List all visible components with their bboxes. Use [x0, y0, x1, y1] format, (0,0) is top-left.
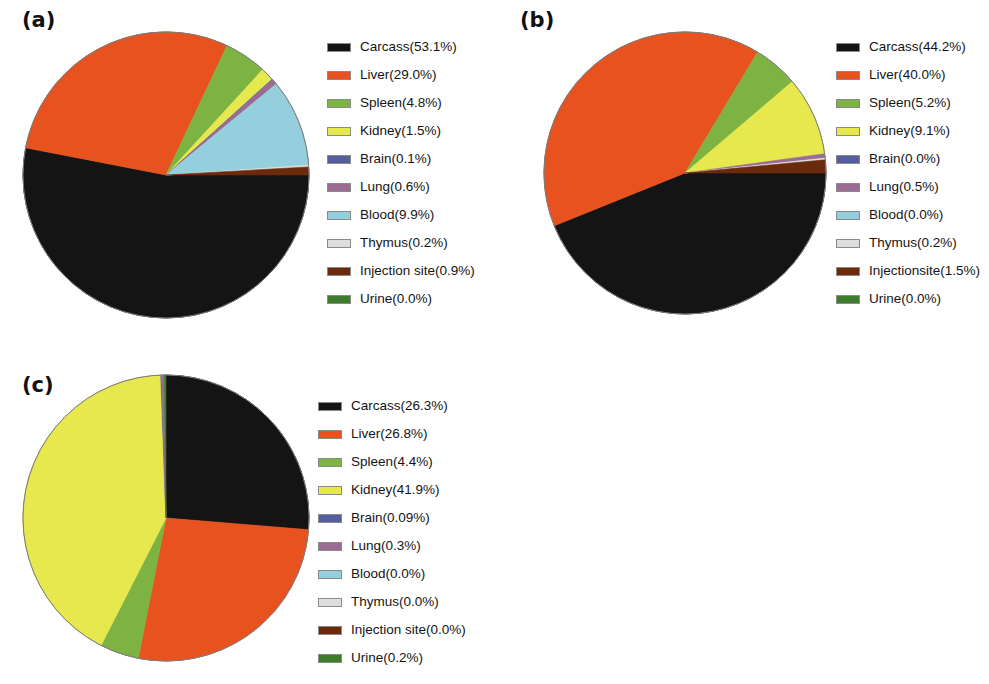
- legend-label: Injection site(0.9%): [360, 264, 475, 278]
- legend-item: Urine(0.2%): [318, 644, 466, 672]
- legend-swatch-liver: [327, 71, 351, 80]
- legend-label: Brain(0.09%): [351, 511, 430, 525]
- panel-label-a: (a): [22, 8, 55, 32]
- legend-b: Carcass(44.2%)Liver(40.0%)Spleen(5.2%)Ki…: [836, 33, 980, 313]
- legend-item: Thymus(0.2%): [836, 229, 980, 257]
- legend-swatch-thymus: [327, 239, 351, 248]
- legend-item: Brain(0.1%): [327, 145, 475, 173]
- legend-item: Thymus(0.2%): [327, 229, 475, 257]
- legend-label: Thymus(0.2%): [869, 236, 957, 250]
- legend-label: Liver(26.8%): [351, 427, 428, 441]
- legend-item: Urine(0.0%): [836, 285, 980, 313]
- legend-label: Brain(0.0%): [869, 152, 940, 166]
- legend-item: Injection site(0.0%): [318, 616, 466, 644]
- legend-label: Lung(0.5%): [869, 180, 939, 194]
- legend-item: Brain(0.09%): [318, 504, 466, 532]
- legend-item: Carcass(53.1%): [327, 33, 475, 61]
- legend-label: Thymus(0.2%): [360, 236, 448, 250]
- legend-item: Carcass(44.2%): [836, 33, 980, 61]
- legend-swatch-thymus: [836, 239, 860, 248]
- pie-chart-c: [21, 373, 311, 663]
- legend-label: Urine(0.0%): [869, 292, 941, 306]
- legend-a: Carcass(53.1%)Liver(29.0%)Spleen(4.8%)Ki…: [327, 33, 475, 313]
- legend-swatch-carcass: [327, 43, 351, 52]
- legend-label: Spleen(5.2%): [869, 96, 951, 110]
- legend-label: Lung(0.3%): [351, 539, 421, 553]
- legend-item: Spleen(4.8%): [327, 89, 475, 117]
- legend-label: Spleen(4.8%): [360, 96, 442, 110]
- legend-swatch-brain: [327, 155, 351, 164]
- legend-c: Carcass(26.3%)Liver(26.8%)Spleen(4.4%)Ki…: [318, 392, 466, 672]
- legend-swatch-brain: [836, 155, 860, 164]
- legend-item: Spleen(5.2%): [836, 89, 980, 117]
- legend-swatch-injection-site: [318, 626, 342, 635]
- legend-label: Blood(9.9%): [360, 208, 434, 222]
- legend-swatch-liver: [836, 71, 860, 80]
- legend-label: Blood(0.0%): [351, 567, 425, 581]
- legend-item: Injectionsite(1.5%): [836, 257, 980, 285]
- legend-swatch-urine: [836, 295, 860, 304]
- pie-chart-b: [542, 30, 828, 316]
- legend-item: Brain(0.0%): [836, 145, 980, 173]
- legend-item: Liver(26.8%): [318, 420, 466, 448]
- legend-label: Kidney(1.5%): [360, 124, 441, 138]
- panel-b: (b) Carcass(44.2%)Liver(40.0%)Spleen(5.2…: [500, 0, 989, 345]
- legend-swatch-spleen: [327, 99, 351, 108]
- pie-b-svg: [542, 30, 828, 316]
- legend-label: Kidney(41.9%): [351, 483, 440, 497]
- panel-c: (c) Carcass(26.3%)Liver(26.8%)Spleen(4.4…: [0, 345, 500, 684]
- legend-swatch-carcass: [318, 402, 342, 411]
- legend-swatch-carcass: [836, 43, 860, 52]
- legend-item: Liver(29.0%): [327, 61, 475, 89]
- legend-item: Blood(0.0%): [836, 201, 980, 229]
- legend-swatch-urine: [327, 295, 351, 304]
- legend-label: Kidney(9.1%): [869, 124, 950, 138]
- pie-a-svg: [21, 30, 311, 320]
- legend-swatch-thymus: [318, 598, 342, 607]
- legend-swatch-lung: [318, 542, 342, 551]
- legend-swatch-lung: [327, 183, 351, 192]
- legend-label: Spleen(4.4%): [351, 455, 433, 469]
- legend-swatch-injectionsite: [836, 267, 860, 276]
- legend-swatch-kidney: [327, 127, 351, 136]
- legend-swatch-brain: [318, 514, 342, 523]
- legend-item: Blood(0.0%): [318, 560, 466, 588]
- legend-item: Thymus(0.0%): [318, 588, 466, 616]
- legend-label: Urine(0.2%): [351, 651, 423, 665]
- legend-item: Liver(40.0%): [836, 61, 980, 89]
- legend-label: Blood(0.0%): [869, 208, 943, 222]
- legend-item: Kidney(1.5%): [327, 117, 475, 145]
- pie-chart-a: [21, 30, 311, 320]
- legend-swatch-blood: [836, 211, 860, 220]
- legend-swatch-kidney: [836, 127, 860, 136]
- legend-item: Kidney(9.1%): [836, 117, 980, 145]
- legend-swatch-spleen: [318, 458, 342, 467]
- legend-swatch-urine: [318, 654, 342, 663]
- panel-label-b: (b): [520, 8, 554, 32]
- legend-label: Injectionsite(1.5%): [869, 264, 980, 278]
- legend-swatch-kidney: [318, 486, 342, 495]
- legend-label: Carcass(53.1%): [360, 40, 457, 54]
- legend-swatch-blood: [318, 570, 342, 579]
- legend-label: Brain(0.1%): [360, 152, 431, 166]
- legend-label: Thymus(0.0%): [351, 595, 439, 609]
- legend-label: Carcass(44.2%): [869, 40, 966, 54]
- legend-item: Kidney(41.9%): [318, 476, 466, 504]
- pie-c-svg: [21, 373, 311, 663]
- pie-slice-liver: [138, 518, 308, 661]
- legend-item: Urine(0.0%): [327, 285, 475, 313]
- legend-swatch-spleen: [836, 99, 860, 108]
- pie-slice-carcass: [166, 375, 309, 530]
- legend-item: Lung(0.6%): [327, 173, 475, 201]
- legend-swatch-injection-site: [327, 267, 351, 276]
- legend-item: Lung(0.5%): [836, 173, 980, 201]
- legend-item: Blood(9.9%): [327, 201, 475, 229]
- legend-label: Liver(40.0%): [869, 68, 946, 82]
- legend-swatch-liver: [318, 430, 342, 439]
- legend-label: Urine(0.0%): [360, 292, 432, 306]
- legend-swatch-blood: [327, 211, 351, 220]
- legend-item: Spleen(4.4%): [318, 448, 466, 476]
- legend-label: Liver(29.0%): [360, 68, 437, 82]
- legend-label: Lung(0.6%): [360, 180, 430, 194]
- legend-item: Carcass(26.3%): [318, 392, 466, 420]
